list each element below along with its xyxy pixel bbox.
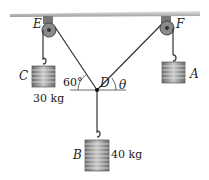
label-e: E — [33, 18, 42, 30]
angle-60-label: 60° — [63, 77, 83, 88]
label-d: D — [100, 77, 110, 89]
weight-c — [32, 66, 55, 87]
weight-a — [162, 62, 185, 83]
angle-theta-label: θ — [119, 79, 126, 91]
angle-theta-arc — [112, 78, 116, 90]
mass-b: 40 kg — [111, 149, 142, 160]
label-b: B — [73, 149, 82, 161]
label-a: A — [190, 68, 199, 80]
pulley-f-icon — [160, 16, 174, 35]
point-d-knot — [95, 88, 99, 92]
weight-b — [85, 140, 109, 171]
pulley-e-icon — [42, 16, 56, 37]
label-c: C — [19, 70, 28, 82]
label-f: F — [176, 18, 184, 30]
pulley-diagram: E F C 30 kg A B 40 kg D 60° θ — [0, 0, 209, 180]
mass-c: 30 kg — [33, 93, 64, 104]
